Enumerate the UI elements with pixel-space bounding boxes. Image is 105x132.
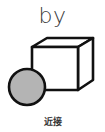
cube-and-sphere-illustration (0, 0, 105, 132)
sphere-icon (9, 69, 45, 105)
flashcard: by 近接 (0, 0, 105, 132)
caption-label: 近接 (0, 116, 105, 128)
